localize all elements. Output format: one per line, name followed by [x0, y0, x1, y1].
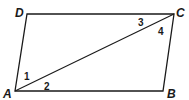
- angle-label-4: 4: [158, 26, 164, 37]
- vertex-label-c: C: [176, 6, 185, 20]
- angle-label-2: 2: [44, 81, 50, 92]
- angle-label-1: 1: [24, 71, 30, 82]
- vertex-label-d: D: [15, 6, 24, 20]
- diagonal-ac: [15, 14, 174, 91]
- vertex-label-a: A: [2, 87, 12, 100]
- parallelogram-diagram: A B C D 1 2 3 4: [0, 0, 189, 100]
- angle-label-3: 3: [138, 17, 144, 28]
- vertex-label-b: B: [167, 87, 176, 100]
